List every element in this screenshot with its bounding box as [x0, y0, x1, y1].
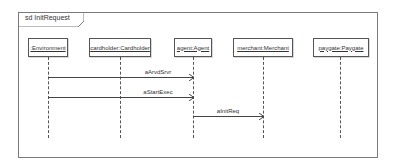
- lifeline-box-environment[interactable]: :Environment: [28, 38, 68, 57]
- arrow-head-icon: [259, 113, 264, 120]
- lifeline-label: :Environment: [30, 45, 65, 51]
- lifeline-label: paygate:Paygate: [318, 45, 363, 51]
- message-arrow-aStartExec[interactable]: [48, 97, 193, 98]
- lifeline-label: merchant:Merchant: [237, 45, 289, 51]
- arrow-head-icon: [189, 74, 194, 81]
- diagram-frame: [18, 12, 378, 158]
- message-label: aArvdSrvr: [145, 69, 172, 75]
- lifeline-box-merchant[interactable]: merchant:Merchant: [233, 38, 293, 57]
- lifeline-box-paygate[interactable]: paygate:Paygate: [313, 38, 369, 57]
- message-arrow-aArvdSrvr[interactable]: [48, 77, 193, 78]
- frame-title: sd InitRequest: [25, 14, 70, 21]
- lifeline-box-agent[interactable]: agent:Agent: [174, 38, 212, 57]
- message-label: aStartExec: [143, 89, 172, 95]
- lifeline-merchant: [263, 57, 264, 138]
- message-label: aInitReq: [217, 108, 239, 114]
- lifeline-label: agent:Agent: [177, 45, 209, 51]
- lifeline-box-cardholder[interactable]: cardholder:Cardholder: [89, 38, 151, 57]
- arrow-head-icon: [189, 94, 194, 101]
- message-arrow-aInitReq[interactable]: [193, 116, 263, 117]
- lifeline-paygate: [340, 57, 341, 138]
- lifeline-label: cardholder:Cardholder: [90, 45, 150, 51]
